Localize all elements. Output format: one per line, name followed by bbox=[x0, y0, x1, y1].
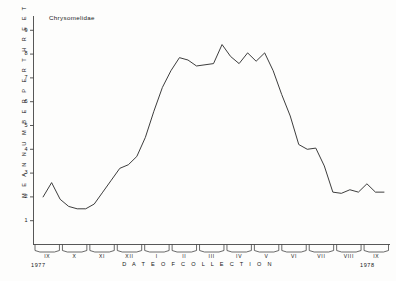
x-tick-label: VIII bbox=[336, 253, 362, 259]
x-tick-label: IV bbox=[226, 253, 252, 259]
y-tick-group bbox=[30, 30, 34, 220]
x-axis-bracket bbox=[309, 245, 333, 253]
data-line-chrysomelidae bbox=[43, 45, 384, 209]
x-axis-bracket bbox=[117, 245, 141, 253]
x-tick-label: III bbox=[199, 253, 225, 259]
x-axis-bracket bbox=[172, 245, 196, 253]
x-axis-bracket bbox=[200, 245, 224, 253]
x-tick-label: XI bbox=[89, 253, 115, 259]
y-tick-label: 6 bbox=[16, 98, 28, 104]
x-tick-label: IX bbox=[363, 253, 389, 259]
plot-area bbox=[0, 0, 396, 281]
x-axis-bracket bbox=[90, 245, 114, 253]
x-axis-bracket bbox=[364, 245, 388, 253]
x-axis-bracket bbox=[227, 245, 251, 253]
y-tick-label: 9 bbox=[16, 27, 28, 33]
y-tick-label: 5 bbox=[16, 122, 28, 128]
x-axis-bracket bbox=[145, 245, 169, 253]
y-tick-label: 4 bbox=[16, 146, 28, 152]
x-tick-label: V bbox=[254, 253, 280, 259]
x-axis-bracket bbox=[62, 245, 86, 253]
x-axis-bracket bbox=[35, 245, 59, 253]
x-tick-label: XII bbox=[116, 253, 142, 259]
x-bracket-group bbox=[35, 245, 389, 253]
x-tick-label: IX bbox=[34, 253, 60, 259]
x-tick-label: VII bbox=[308, 253, 334, 259]
chart-figure: Chrysomelidae M E A N N U M B E R P E R … bbox=[0, 0, 396, 281]
x-tick-label: X bbox=[62, 253, 88, 259]
x-axis-bracket bbox=[282, 245, 306, 253]
y-tick-label: 2 bbox=[16, 193, 28, 199]
x-tick-label: II bbox=[171, 253, 197, 259]
x-axis-bracket bbox=[337, 245, 361, 253]
x-tick-label: I bbox=[144, 253, 170, 259]
y-tick-label: 8 bbox=[16, 50, 28, 56]
x-axis-bracket bbox=[254, 245, 278, 253]
y-tick-label: 7 bbox=[16, 74, 28, 80]
y-tick-label: 1 bbox=[16, 217, 28, 223]
y-tick-label: 3 bbox=[16, 169, 28, 175]
axes-group bbox=[34, 16, 391, 245]
x-tick-label: VI bbox=[281, 253, 307, 259]
